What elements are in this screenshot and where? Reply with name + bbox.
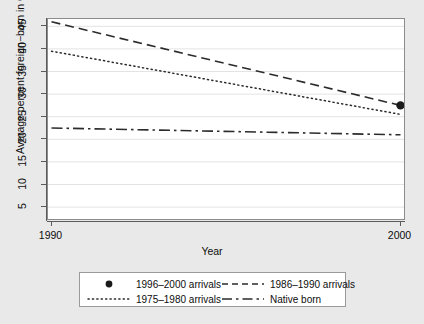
series-marker-1996-2000 (396, 101, 404, 109)
dotted-line-icon (86, 292, 132, 306)
x-tick-label: 1990 (39, 229, 62, 241)
legend-label: 1975–1980 arrivals (132, 294, 221, 305)
dash-dot-line-icon (220, 292, 266, 306)
x-axis-title: Year (0, 245, 424, 257)
y-axis-line (46, 18, 47, 221)
series-line-1975-1980 (52, 51, 401, 114)
y-axis-title: Average percent foreign−born in Census t… (14, 0, 26, 154)
legend-item-1986-1990-arrivals: 1986–1990 arrivals (220, 276, 355, 292)
dashed-line-icon (220, 277, 266, 291)
x-tick-label: 2000 (388, 229, 411, 241)
filled-circle-marker-icon (86, 277, 132, 291)
plot-canvas (48, 19, 404, 219)
gridlines (48, 26, 404, 207)
legend-item-1996-2000-arrivals: 1996–2000 arrivals (86, 276, 221, 292)
x-axis-line (47, 221, 405, 222)
legend: 1996–2000 arrivals 1986–1990 arrivals (79, 272, 346, 307)
legend-label: Native born (266, 294, 321, 305)
plot-area (47, 18, 405, 220)
series-line-native-born (52, 128, 401, 135)
series-line-1986-1990 (52, 22, 401, 106)
legend-label: 1996–2000 arrivals (132, 279, 221, 290)
legend-item-native-born: Native born (220, 291, 321, 307)
chart-figure: 5 10 15 20 25 30 35 40 45 Average percen… (0, 0, 424, 324)
legend-label: 1986–1990 arrivals (266, 279, 355, 290)
legend-item-1975-1980-arrivals: 1975–1980 arrivals (86, 291, 221, 307)
